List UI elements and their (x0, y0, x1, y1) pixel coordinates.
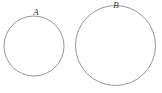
circle-b-label: B (113, 0, 119, 10)
circle-b-outline (76, 6, 156, 86)
circle-a-outline (4, 16, 64, 76)
circles-diagram: A B (0, 0, 162, 93)
circle-a-label: A (32, 7, 39, 17)
figure-canvas: A B (0, 0, 162, 93)
